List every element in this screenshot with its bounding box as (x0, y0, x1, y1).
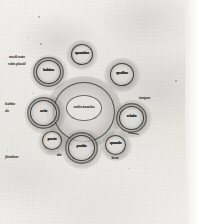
node-label-quando: quando (105, 140, 126, 145)
node-label-actio: actio (30, 108, 57, 113)
node-circle-positio[interactable] (68, 135, 95, 161)
margin-note-mid-left-line1: habitu (5, 101, 15, 106)
node-label-passio: passio (42, 136, 62, 141)
margin-note-mid-left-line2: do (5, 108, 9, 113)
margin-note-upper-left-line1: modi natu (9, 54, 25, 59)
node-circle-relatio[interactable] (119, 106, 144, 130)
node-label-positio: positio (68, 143, 95, 148)
node-circle-quando[interactable] (105, 135, 126, 155)
margin-note-right: tempus (139, 95, 150, 100)
page-right-margin (185, 0, 199, 224)
center-label: substantia (69, 104, 99, 109)
node-label-habitus: habitus (36, 67, 61, 72)
node-sublabel-ubi: ubi (50, 152, 68, 157)
node-circle-actio[interactable] (30, 100, 57, 126)
circle-diagram: substantia quantitas qualitas relatio qu… (0, 0, 188, 224)
manuscript-folio: substantia quantitas qualitas relatio qu… (0, 0, 199, 224)
node-label-qualitas: qualitas (110, 70, 134, 75)
node-circle-habitus[interactable] (36, 60, 61, 84)
margin-note-upper-left-line2: rales placid (8, 61, 25, 66)
margin-note-lower-left: fiendum (5, 154, 18, 159)
node-label-quantitas: quantitas (71, 50, 93, 55)
node-sublabel-locus: locus (103, 155, 127, 160)
node-label-relatio: relatio (119, 113, 144, 118)
